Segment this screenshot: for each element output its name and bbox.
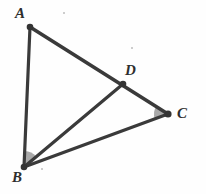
geometry-figure: A B C D (0, 0, 206, 194)
vertex-label-c: C (177, 106, 187, 121)
vertex-dot-D (120, 81, 127, 88)
figure-canvas (0, 0, 206, 194)
vertex-dot-C (164, 110, 171, 117)
segment-BC (24, 114, 168, 167)
scan-speck (131, 47, 133, 49)
vertex-dot-A (27, 24, 34, 31)
vertex-label-b: B (12, 170, 22, 185)
segment-AC (30, 27, 168, 114)
vertex-label-d: D (125, 63, 136, 78)
segment-BD (24, 84, 123, 167)
vertex-label-a: A (15, 6, 25, 21)
segment-AB (24, 27, 30, 167)
scan-speck (41, 168, 43, 170)
scan-speck (63, 12, 65, 14)
